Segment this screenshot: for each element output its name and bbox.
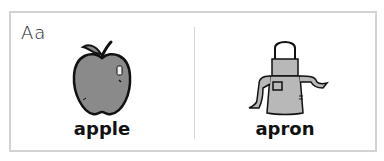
word-panel-apron: apron bbox=[194, 13, 376, 150]
word-label-apron: apron bbox=[194, 118, 376, 139]
word-label-apple: apple bbox=[11, 118, 193, 139]
apron-icon bbox=[237, 38, 333, 120]
apple-icon bbox=[69, 38, 135, 120]
word-panel-apple: apple bbox=[11, 13, 193, 150]
vocabulary-card: Aa apple apron bbox=[9, 11, 377, 152]
